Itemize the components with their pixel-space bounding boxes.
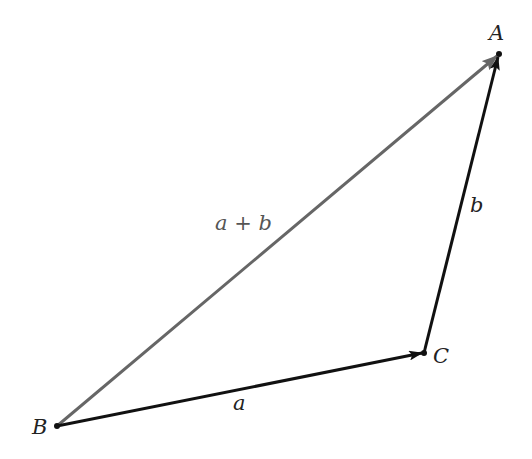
vector-triangle-diagram: A B C a + b a b (0, 0, 532, 459)
label-A: A (487, 21, 504, 45)
point-B (54, 423, 60, 429)
point-C (421, 350, 427, 356)
point-A (496, 51, 502, 57)
label-b: b (470, 193, 483, 217)
label-a: a (233, 391, 246, 415)
label-C: C (433, 344, 449, 368)
label-a-plus-b: a + b (215, 211, 272, 235)
vector-a (57, 353, 422, 426)
vector-a-plus-b (57, 56, 497, 426)
label-B: B (31, 415, 47, 439)
vector-b (424, 57, 498, 353)
